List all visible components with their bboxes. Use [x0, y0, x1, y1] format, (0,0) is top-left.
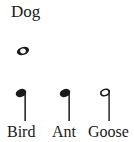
- half-note-goose: [99, 86, 115, 122]
- note-label-dog: Dog: [11, 3, 40, 20]
- whole-note-dog: [15, 44, 31, 58]
- music-notation-figure: Dog: [0, 0, 134, 142]
- quarter-note-ant: [59, 86, 75, 122]
- note-label-ant: Ant: [52, 124, 76, 140]
- note-label-bird: Bird: [7, 124, 35, 140]
- note-label-goose: Goose: [88, 124, 129, 140]
- quarter-note-bird: [15, 86, 31, 122]
